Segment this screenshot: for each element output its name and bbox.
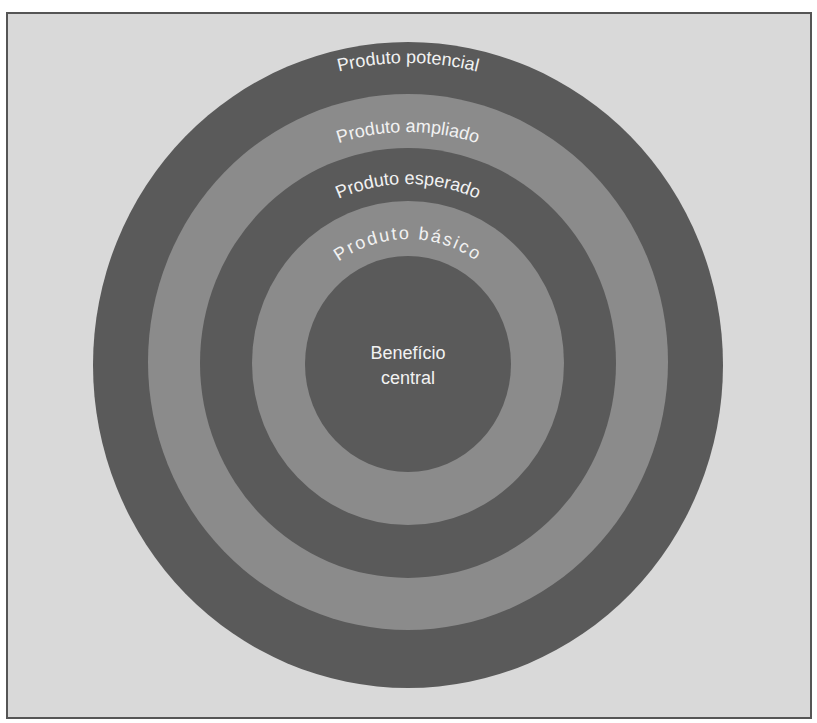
core-beneficio-central xyxy=(305,256,511,472)
label-beneficio: Benefício xyxy=(370,343,445,363)
label-central: central xyxy=(381,368,435,388)
product-levels-diagram: Produto potencial Produto ampliado Produ… xyxy=(0,0,817,723)
